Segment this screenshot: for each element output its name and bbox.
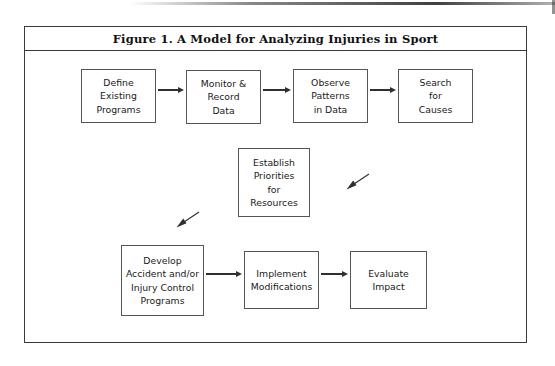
arrow-head-icon	[390, 87, 396, 93]
node-label-line: Develop	[143, 254, 181, 267]
node-label-line: Modifications	[251, 280, 313, 293]
node-label-line: Define	[103, 76, 133, 89]
connector-develop-to-implement	[206, 268, 242, 280]
node-label-line: Monitor &	[201, 77, 247, 90]
arrow-head-icon	[178, 87, 184, 93]
diagonal-arrow-establish-to-develop-diagonal	[175, 211, 201, 229]
arrow-down-left-icon	[345, 173, 371, 191]
node-label-line: Injury Control	[131, 281, 194, 294]
node-label-line: Impact	[372, 280, 404, 293]
node-implement-modifications: ImplementModifications	[244, 251, 319, 309]
connector-shaft	[263, 89, 286, 90]
connector-implement-to-evaluate	[321, 268, 348, 280]
node-label-line: Evaluate	[368, 267, 409, 280]
arrow-head-icon	[285, 87, 291, 93]
flowchart-diagram: DefineExistingProgramsMonitor &RecordDat…	[25, 51, 526, 342]
arrow-head-icon	[236, 271, 242, 277]
node-label-line: in Data	[314, 103, 348, 116]
node-label-line: Accident and/or	[126, 267, 199, 280]
node-label-line: Establish	[253, 156, 295, 169]
connector-shaft	[158, 89, 179, 90]
connector-define-to-monitor	[158, 84, 184, 96]
node-label-line: Existing	[100, 89, 137, 102]
arrow-down-left-icon	[175, 211, 201, 229]
node-label-line: Patterns	[311, 89, 349, 102]
node-monitor-record-data: Monitor &RecordData	[186, 70, 261, 124]
figure-title-band: Figure 1. A Model for Analyzing Injuries…	[25, 27, 526, 51]
scan-edge-artifact-top	[130, 2, 555, 5]
node-observe-patterns-in-data: ObservePatternsin Data	[293, 69, 368, 123]
node-label-line: Implement	[256, 267, 306, 280]
node-label-line: Causes	[419, 103, 453, 116]
node-label-line: Observe	[311, 76, 350, 89]
node-label-line: Data	[212, 104, 234, 117]
arrow-head-icon	[342, 271, 348, 277]
node-develop-accident-injury-control-programs: DevelopAccident and/orInjury ControlProg…	[121, 245, 204, 316]
node-define-existing-programs: DefineExistingPrograms	[81, 69, 156, 123]
node-label-line: Programs	[140, 294, 184, 307]
node-label-line: Search	[420, 76, 452, 89]
figure-title: Figure 1. A Model for Analyzing Injuries…	[113, 32, 439, 46]
diagonal-arrow-search-to-establish-diagonal	[345, 173, 371, 191]
node-label-line: Resources	[250, 196, 297, 209]
node-label-line: Priorities	[254, 169, 295, 182]
node-label-line: for	[268, 183, 281, 196]
node-label-line: for	[429, 89, 442, 102]
figure-frame: Figure 1. A Model for Analyzing Injuries…	[24, 26, 527, 343]
connector-monitor-to-observe	[263, 84, 291, 96]
node-evaluate-impact: EvaluateImpact	[350, 251, 427, 309]
connector-shaft	[206, 273, 237, 274]
connector-observe-to-search	[370, 84, 396, 96]
node-search-for-causes: SearchforCauses	[398, 69, 473, 123]
connector-shaft	[370, 89, 391, 90]
connector-shaft	[321, 273, 343, 274]
node-label-line: Record	[207, 90, 239, 103]
node-label-line: Programs	[96, 103, 140, 116]
node-establish-priorities-for-resources: EstablishPrioritiesforResources	[238, 148, 310, 217]
